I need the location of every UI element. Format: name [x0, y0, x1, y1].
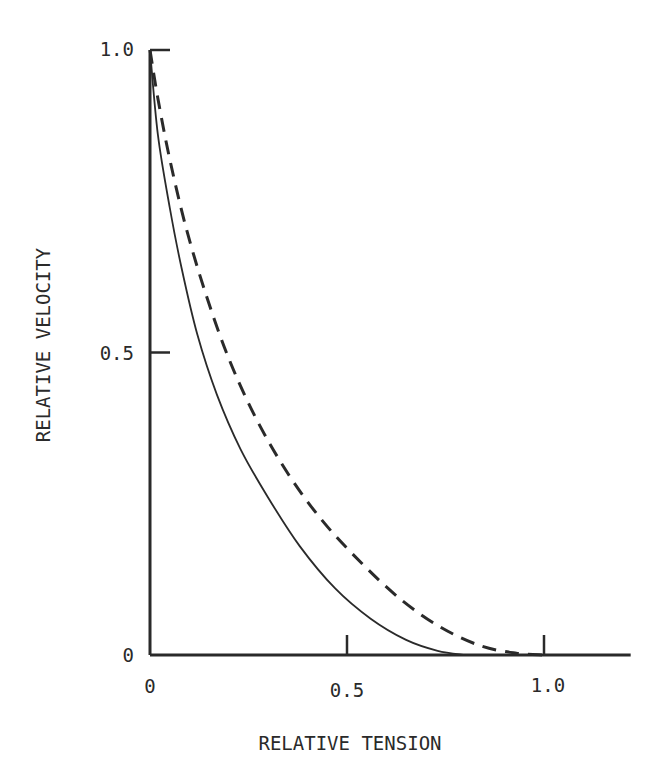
- ticks: [150, 50, 544, 655]
- x-axis-label: RELATIVE TENSION: [258, 732, 441, 754]
- x-tick-label-0.5: 0.5: [330, 679, 364, 701]
- series-solid-line: [150, 50, 465, 655]
- chart: 0 0.5 1.0 0 0.5 1.0 RELATIVE TENSION REL…: [0, 0, 663, 775]
- series-dashed-line: [150, 50, 544, 655]
- axes: [150, 50, 631, 655]
- x-tick-label-0: 0: [144, 675, 155, 697]
- series-group: [150, 50, 544, 655]
- y-tick-label-0: 0: [123, 644, 134, 666]
- x-tick-label-1.0: 1.0: [531, 674, 565, 696]
- y-axis-label: RELATIVE VELOCITY: [32, 247, 54, 442]
- y-tick-label-0.5: 0.5: [100, 342, 134, 364]
- y-tick-label-1.0: 1.0: [100, 38, 134, 60]
